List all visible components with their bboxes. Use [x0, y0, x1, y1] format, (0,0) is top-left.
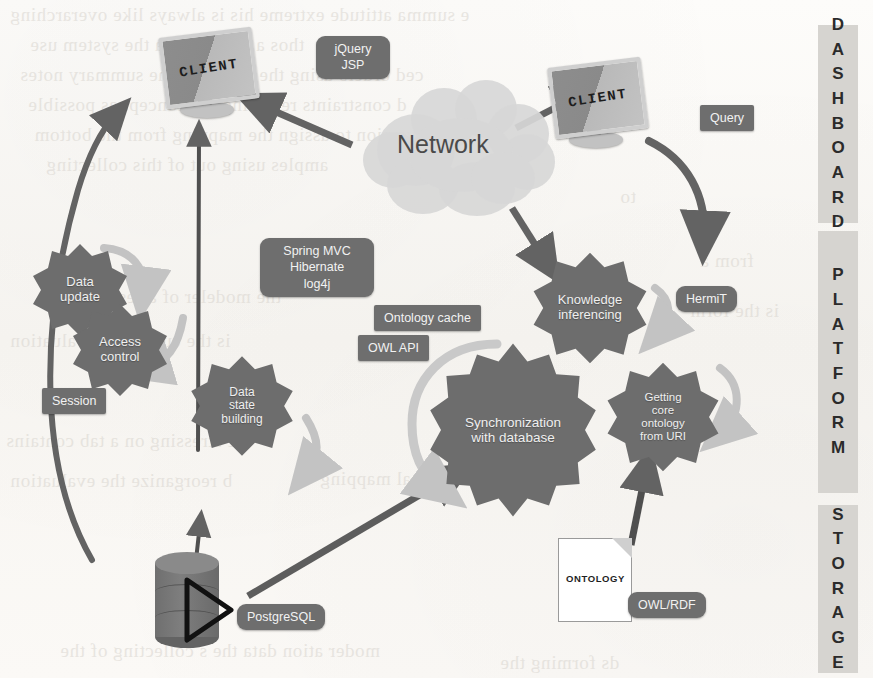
arrow-ontology-to-gear [631, 470, 646, 545]
tag-line: Session [52, 393, 96, 409]
tag-line: Spring MVC [270, 243, 364, 259]
layer-band-letter: T [833, 527, 843, 552]
layer-band-letter: O [831, 387, 844, 412]
tag-line: Query [710, 110, 744, 126]
client-left[interactable]: CLIENT [162, 32, 254, 122]
layer-band-letter: S [832, 503, 843, 528]
bleed-text-line: to [620, 186, 636, 208]
tag-line: PostgreSQL [247, 609, 315, 625]
layer-band-letter: R [832, 186, 844, 211]
arrow-client-to-inferencing [649, 141, 704, 236]
bleed-text-line: b reorganize the evaluation [10, 470, 232, 492]
ontology-document[interactable]: ONTOLOGY [558, 538, 634, 624]
layer-band-letter: B [832, 112, 844, 137]
gear-synchronization[interactable]: Synchronization with database [423, 340, 603, 520]
layer-band-platform: PLATFORM [818, 231, 858, 493]
tag-line: OWL API [368, 340, 419, 356]
tag-owl-api[interactable]: OWL API [358, 335, 429, 361]
layer-band-letter: R [832, 577, 844, 602]
rotation-arrow-getting-core [720, 368, 737, 432]
monitor-screen: CLIENT [158, 27, 260, 110]
rotation-arrow-inferencing [655, 288, 668, 332]
database-cylinder[interactable] [155, 552, 221, 652]
rotation-arrow-data-state [306, 418, 317, 472]
cylinder-top [155, 552, 219, 574]
tag-session[interactable]: Session [42, 388, 106, 414]
postgres-elephant-icon [181, 574, 237, 644]
layer-band-storage: STORAGE [818, 505, 858, 673]
bleed-text-line: from a [700, 250, 754, 272]
layer-band-letter: R [832, 411, 844, 436]
layer-band-letter: S [832, 62, 843, 87]
tag-line: jQuery [326, 41, 380, 57]
document-fold-icon [612, 538, 632, 558]
layer-band-letter: O [831, 552, 844, 577]
layer-band-letter: L [833, 288, 843, 313]
layer-band-letter: A [832, 601, 844, 626]
tag-line: HermiT [686, 291, 727, 307]
arrow-database-to-sync [248, 476, 452, 596]
layer-band-letter: M [831, 436, 845, 461]
arrow-network-to-client-left [258, 104, 352, 145]
tag-query[interactable]: Query [700, 105, 754, 131]
tag-line: JSP [326, 57, 380, 73]
network-cloud: Network [355, 78, 560, 218]
client-left-label: CLIENT [178, 55, 239, 80]
layer-band-letter: T [833, 337, 843, 362]
tag-hermit[interactable]: HermiT [676, 286, 737, 312]
ontology-doc-label: ONTOLOGY [566, 573, 625, 584]
layer-band-letter: E [832, 651, 843, 676]
bleed-text-line: e summa attitude extreme his is always l… [10, 4, 469, 26]
layer-band-letter: P [832, 263, 843, 288]
tag-jquery-jsp[interactable]: jQuery JSP [316, 36, 390, 79]
layer-band-letter: A [832, 161, 844, 186]
bleed-text-line: ds forming the [500, 652, 619, 674]
client-right-label: CLIENT [567, 85, 628, 110]
client-right[interactable]: CLIENT [551, 62, 643, 152]
gear-access-control[interactable]: Access control [70, 300, 170, 400]
tag-line: Hibernate [270, 259, 364, 275]
layer-band-letter: D [832, 13, 844, 38]
layer-band-letter: O [831, 136, 844, 161]
tag-line: OWL/RDF [638, 597, 696, 613]
monitor-screen: CLIENT [547, 57, 649, 140]
tag-line: Ontology cache [384, 310, 471, 326]
layer-band-letter: G [831, 626, 844, 651]
layer-band-dashboard: DASHBOARD [818, 25, 858, 223]
bleed-text-line: amples using out of this collecting [46, 154, 328, 176]
tag-spring-stack[interactable]: Spring MVC Hibernate log4j [260, 238, 374, 297]
layer-band-letter: A [832, 313, 844, 338]
network-label: Network [397, 130, 489, 159]
tag-ontology-cache[interactable]: Ontology cache [374, 305, 481, 331]
gear-data-state-building[interactable]: Data state building [188, 352, 296, 460]
tag-owl-rdf[interactable]: OWL/RDF [628, 592, 706, 618]
diagram-canvas: e summa attitude extreme his is always l… [0, 0, 873, 678]
layer-band-letter: F [833, 362, 843, 387]
gear-getting-core-ontology[interactable]: Getting core ontology from URI [604, 358, 722, 476]
tag-line: log4j [270, 276, 364, 292]
layer-band-letter: A [832, 38, 844, 63]
tag-postgresql[interactable]: PostgreSQL [237, 604, 325, 630]
layer-band-letter: H [832, 87, 844, 112]
